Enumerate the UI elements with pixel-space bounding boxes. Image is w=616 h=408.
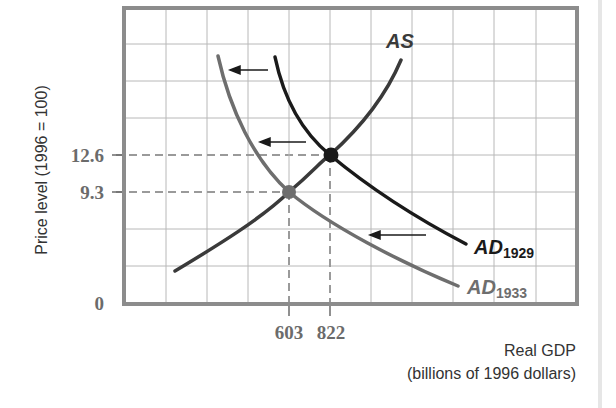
tick-marks	[112, 155, 330, 316]
x-axis-title-line2: (billions of 1996 dollars)	[407, 365, 576, 382]
equilibrium-point-1933	[282, 185, 296, 199]
ad1933-curve	[218, 56, 458, 286]
y-tick-label-12-6: 12.6	[71, 145, 104, 166]
ad1933-label: AD1933	[466, 276, 527, 301]
as-curve	[175, 60, 401, 271]
y-axis-title: Price level (1996 = 100)	[33, 85, 50, 254]
x-tick-label-822: 822	[317, 322, 346, 343]
ad1929-label: AD1929	[473, 236, 534, 261]
ad-as-chart: 12.6 9.3 0 603 822 Price level (1996 = 1…	[0, 0, 616, 408]
x-tick-label-603: 603	[275, 322, 304, 343]
left-arrow-icon	[230, 66, 268, 74]
as-label: AS	[385, 30, 414, 52]
left-arrow-icon	[260, 138, 306, 146]
equilibrium-point-1929	[324, 148, 339, 163]
x-axis-title-line1: Real GDP	[504, 342, 576, 359]
y-tick-label-9-3: 9.3	[80, 182, 104, 203]
left-arrow-icon	[370, 231, 426, 239]
y-tick-label-zero: 0	[95, 293, 105, 314]
